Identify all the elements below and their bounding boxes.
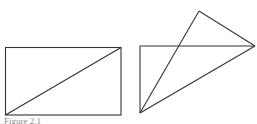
left-rectangle-figure <box>6 48 122 116</box>
right-folded-figure <box>140 11 255 113</box>
figure-caption: Figure 2.1 <box>4 117 41 124</box>
apex-to-bottom-left <box>140 11 199 113</box>
diagram-canvas <box>0 0 257 124</box>
left-diagonal <box>6 48 122 116</box>
right-diagonal <box>140 46 255 113</box>
apex-to-right <box>199 11 255 46</box>
